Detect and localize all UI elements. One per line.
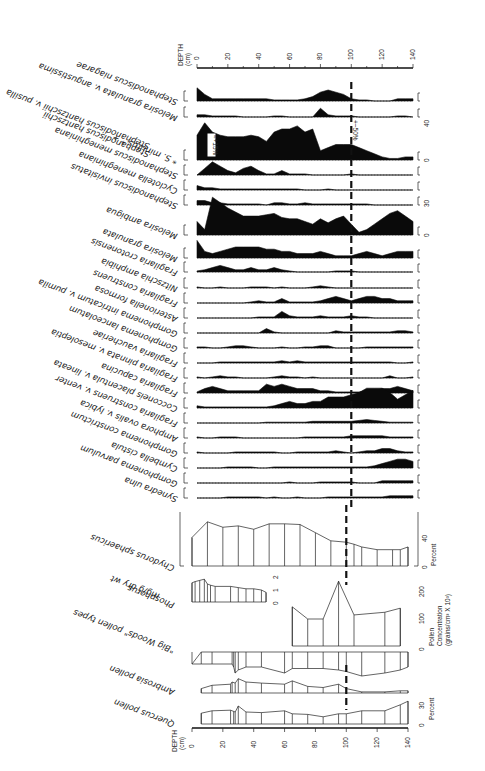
row-scale-bracket-right xyxy=(418,310,420,318)
row-scale-bracket-left xyxy=(184,323,188,333)
row-scale-bracket-right xyxy=(418,355,420,363)
row-scale-bracket-right xyxy=(418,400,420,408)
depth-axis-label: DEPTH xyxy=(177,44,184,66)
percent-label: Percent xyxy=(430,543,437,566)
row-scale-bracket-right xyxy=(418,250,420,258)
row-scale-bracket-left xyxy=(184,262,188,272)
diatom-profile xyxy=(197,376,413,378)
depth-tick-label: 40 xyxy=(250,740,257,748)
diatom-row: Melosira ambigua xyxy=(105,197,420,241)
panel-scale-label: 0 xyxy=(423,233,430,237)
diatom-profile xyxy=(197,88,413,101)
quercus-label: Quercus pollen xyxy=(112,697,175,729)
row-scale-bracket-right xyxy=(418,445,420,453)
phosphorus-profile xyxy=(192,579,266,602)
ambrosia-label: Ambrosia pollen xyxy=(108,663,177,697)
row-scale-bracket-left xyxy=(184,338,188,348)
diatom-profile xyxy=(197,420,413,423)
pollen-concentration-label: Concentration xyxy=(436,605,443,646)
diatom-profile xyxy=(197,329,413,333)
row-scale-bracket-left xyxy=(184,293,188,303)
phosphorus-scale-label: 2 xyxy=(272,575,279,579)
row-scale-bracket-right xyxy=(418,430,420,438)
depth-tick-label: 60 xyxy=(286,52,293,60)
row-scale-bracket-right xyxy=(418,182,420,190)
chydorus-scale-label: 0 xyxy=(421,565,428,569)
diatom-profile xyxy=(197,201,413,205)
percent-label-bottom: Percent xyxy=(428,697,435,720)
row-scale-bracket-left xyxy=(184,428,188,438)
depth-tick-label: 0 xyxy=(193,56,200,60)
row-scale-bracket-right xyxy=(418,370,420,378)
depth-tick-label: 40 xyxy=(255,52,262,60)
quercus-profile xyxy=(201,701,408,724)
diatom-profile xyxy=(197,459,413,468)
stratigraphic-diagram: 020406080100120140DEPTH(cm)Stephanodiscu… xyxy=(0,0,485,771)
row-scale-bracket-left xyxy=(184,150,188,160)
depth-tick-label: 80 xyxy=(311,740,318,748)
panel-scale-label: 0 xyxy=(423,158,430,162)
diatom-profile xyxy=(197,286,413,288)
row-scale-bracket-left xyxy=(184,398,188,408)
row-scale-bracket-left xyxy=(184,413,188,423)
depth-tick-label: 140 xyxy=(404,737,411,748)
depth-axis-unit-bottom: (cm) xyxy=(178,737,186,750)
row-scale-bracket-right xyxy=(418,227,420,235)
row-scale-bracket-left xyxy=(184,353,188,363)
depth-axis-unit: (cm) xyxy=(184,53,192,66)
diatom-profile xyxy=(197,240,413,258)
pollen-scale-label: 200 xyxy=(418,586,425,597)
annotation-box-label: ≈+15% xyxy=(212,135,219,156)
row-scale-bracket-left xyxy=(184,458,188,468)
diatom-profile xyxy=(197,496,413,498)
panel-scale-label: 30 xyxy=(423,199,430,207)
depth-tick-label: 80 xyxy=(316,52,323,60)
row-scale-bracket-left xyxy=(184,488,188,498)
row-scale-bracket-right xyxy=(418,325,420,333)
chydorus-scale-label: 40 xyxy=(421,534,428,542)
depth-tick-label: 140 xyxy=(409,49,416,60)
quercus-scale-label: 30 xyxy=(418,701,425,709)
row-scale-bracket-right xyxy=(418,385,420,393)
row-scale-bracket-right xyxy=(418,109,420,117)
row-scale-bracket-left xyxy=(184,443,188,453)
pollen-concentration-label: (grains/cm³ X 10³) xyxy=(444,594,452,646)
chydorus-left-axis xyxy=(180,512,184,566)
pollen-concentration-label: Pollen xyxy=(428,628,435,646)
row-scale-bracket-right xyxy=(418,167,420,175)
row-scale-bracket-left xyxy=(184,165,188,175)
depth-tick-label: 100 xyxy=(347,49,354,60)
depth-tick-label: 20 xyxy=(224,52,231,60)
depth-tick-label: 120 xyxy=(378,49,385,60)
diatom-profile xyxy=(197,436,413,438)
pollen-scale-label: 100 xyxy=(418,613,425,624)
depth-tick-label: 100 xyxy=(342,737,349,748)
row-scale-bracket-right xyxy=(418,264,420,272)
annotation-main-label: +~50% xyxy=(352,120,359,141)
row-scale-bracket-right xyxy=(418,475,420,483)
pollen-concentration-profile xyxy=(292,581,400,646)
row-scale-bracket-right xyxy=(418,295,420,303)
row-scale-bracket-right xyxy=(418,415,420,423)
row-scale-bracket-right xyxy=(418,490,420,498)
row-scale-bracket-left xyxy=(184,473,188,483)
phosphorus-scale-label: 0 xyxy=(272,601,279,605)
row-scale-bracket-right xyxy=(418,460,420,468)
phosphorus-scale-label: 1 xyxy=(272,588,279,592)
diatom-profile xyxy=(197,346,413,348)
pollen-scale-label: 0 xyxy=(418,647,425,651)
row-scale-bracket-left xyxy=(184,195,188,205)
row-scale-bracket-left xyxy=(184,278,188,288)
diatom-profile xyxy=(197,449,413,453)
diatom-profile xyxy=(197,186,413,190)
row-scale-bracket-left xyxy=(184,91,188,101)
diatom-profile xyxy=(197,108,413,117)
big-woods-label: "Big Woods" pollen types xyxy=(71,607,175,655)
row-scale-bracket-left xyxy=(184,308,188,318)
depth-tick-label: 20 xyxy=(219,740,226,748)
diatom-profile xyxy=(197,481,413,483)
chydorus-label: Chydorus sphaericus xyxy=(89,532,176,573)
chydorus-right-axis xyxy=(414,512,418,566)
depth-axis-label-bottom: DEPTH xyxy=(171,730,178,752)
row-scale-bracket-right xyxy=(418,93,420,101)
